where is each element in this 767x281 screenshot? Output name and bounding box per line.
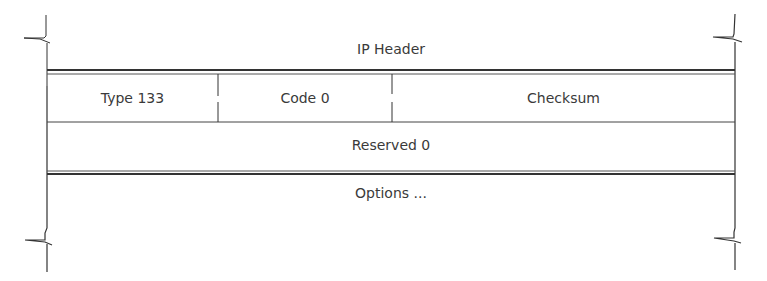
reserved-field: Reserved 0 xyxy=(47,137,735,153)
type-field: Type 133 xyxy=(47,90,218,106)
options-field: Options ... xyxy=(47,185,735,201)
checksum-field: Checksum xyxy=(392,90,735,106)
code-field: Code 0 xyxy=(218,90,392,106)
ip-header-label: IP Header xyxy=(47,41,735,57)
